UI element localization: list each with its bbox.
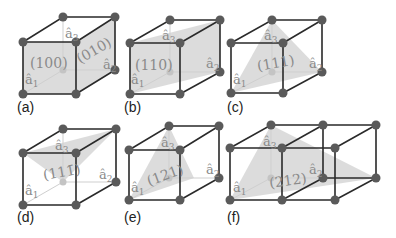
miller-label: (100) — [30, 55, 68, 71]
panel-d: â3 â1 â2 (111̄) (d) — [17, 125, 121, 226]
axis-a3-label: â3 — [65, 26, 79, 43]
axis-a1-label: â1 — [25, 183, 39, 200]
panel-label-f: (f) — [227, 209, 240, 225]
panel-label-c: (c) — [227, 99, 243, 115]
panel-f: â3 â1 â2 (212) (f) — [226, 121, 381, 226]
panel-e: â3 â1 â2 (121) (e) — [124, 122, 224, 226]
panel-b: â3 â1 â2 (110) (b) — [124, 16, 225, 116]
panel-label-e: (e) — [124, 209, 141, 225]
axis-a3-label: â3 — [55, 138, 69, 155]
panel-label-b: (b) — [124, 99, 141, 115]
axis-a2-label: â2 — [309, 56, 323, 73]
axis-a3-label: â3 — [162, 28, 176, 45]
panel-a: â3 â1 â2 (100) (010) (a) — [17, 13, 120, 116]
panel-label-a: (a) — [17, 99, 34, 115]
axis-a2-label: â2 — [99, 167, 113, 184]
panel-label-d: (d) — [17, 209, 34, 225]
axis-a2-label: â2 — [206, 162, 220, 179]
miller-label: (110) — [135, 57, 173, 73]
panel-c: â3 â1 â2 (111) (c) — [227, 16, 327, 116]
miller-indices-figure: â3 â1 â2 (100) (010) (a) â3 â1 â2 (110) … — [0, 0, 396, 238]
